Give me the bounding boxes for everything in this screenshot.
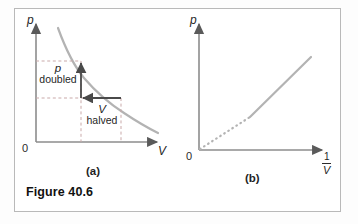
panel-b-graphics bbox=[199, 24, 322, 150]
annotation-pressure-word: doubled bbox=[36, 74, 80, 85]
panel-a-origin-label: 0 bbox=[22, 143, 28, 155]
panel-b-x-axis-label-fraction: 1 V bbox=[322, 152, 331, 176]
fraction-numerator: 1 bbox=[322, 152, 331, 162]
panel-a-annotation-volume-halved: V halved bbox=[82, 103, 122, 126]
annotation-volume-word: halved bbox=[82, 115, 122, 126]
panel-b-origin-label: 0 bbox=[186, 151, 192, 163]
panel-a-tag: (a) bbox=[86, 165, 100, 177]
panel-a-y-axis-label: p bbox=[27, 14, 34, 27]
fraction-denominator: V bbox=[322, 165, 331, 176]
panel-b-solid-line-segment bbox=[250, 57, 311, 117]
panel-b-y-axis-label: p bbox=[190, 14, 197, 27]
panel-a-x-axis-label: V bbox=[158, 145, 166, 158]
panel-b-dotted-line-segment bbox=[200, 117, 250, 149]
figure-container: p V 0 p doubled V halved (a) p 0 1 V (b)… bbox=[0, 0, 358, 224]
panel-b-tag: (b) bbox=[245, 172, 260, 184]
figure-caption: Figure 40.6 bbox=[26, 186, 93, 199]
panel-a-annotation-pressure-doubled: p doubled bbox=[36, 62, 80, 85]
